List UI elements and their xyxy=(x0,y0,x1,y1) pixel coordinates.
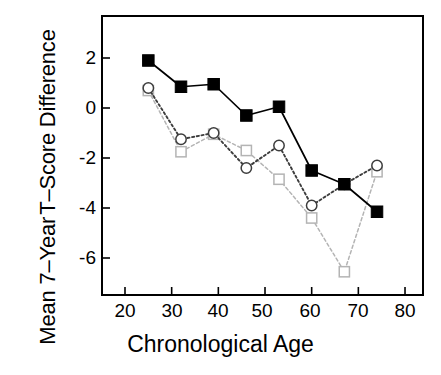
data-point-open-square-dashed-32 xyxy=(176,147,186,157)
x-tick-label-40: 40 xyxy=(196,301,240,320)
data-point-open-circle-dotted-25 xyxy=(143,83,153,93)
x-tick-label-20: 20 xyxy=(103,301,147,320)
data-point-open-square-dashed-53 xyxy=(274,174,284,184)
data-point-open-square-dashed-60 xyxy=(307,213,317,223)
data-point-filled-square-solid-60 xyxy=(306,165,318,177)
x-tick-label-30: 30 xyxy=(150,301,194,320)
data-point-filled-square-solid-25 xyxy=(143,55,155,67)
data-point-open-square-dashed-46 xyxy=(241,145,251,155)
data-point-open-circle-dotted-32 xyxy=(176,134,186,144)
data-point-open-circle-dotted-60 xyxy=(306,200,316,210)
data-point-filled-square-solid-46 xyxy=(241,110,253,122)
figure-container: Mean 7–Year T–Score Difference 2 0 -2 -4… xyxy=(0,0,441,375)
data-point-open-square-dashed-67 xyxy=(339,267,349,277)
data-point-filled-square-solid-53 xyxy=(273,101,285,113)
x-axis-tick-labels: 20 30 40 50 60 70 80 xyxy=(0,301,441,327)
x-tick-label-70: 70 xyxy=(336,301,380,320)
data-point-open-circle-dotted-53 xyxy=(274,140,284,150)
data-point-filled-square-solid-32 xyxy=(175,81,187,93)
x-axis-label: Chronological Age xyxy=(0,331,441,358)
data-point-open-circle-dotted-46 xyxy=(241,163,251,173)
data-point-open-circle-dotted-39 xyxy=(208,128,218,138)
x-tick-label-50: 50 xyxy=(240,301,284,320)
figure-caption xyxy=(0,366,441,375)
data-point-filled-square-solid-39 xyxy=(208,79,220,91)
x-tick-label-60: 60 xyxy=(288,301,332,320)
x-tick-label-80: 80 xyxy=(383,301,427,320)
data-point-filled-square-solid-74 xyxy=(371,206,383,218)
data-point-open-circle-dotted-74 xyxy=(372,160,382,170)
data-point-filled-square-solid-67 xyxy=(339,179,351,191)
data-series-layer xyxy=(143,55,383,277)
